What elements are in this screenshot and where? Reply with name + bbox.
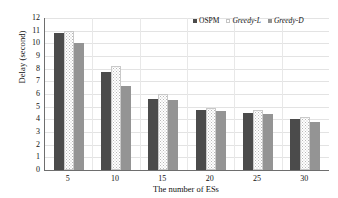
plot-area: [44, 18, 329, 171]
y-axis-tick-label: 3: [18, 128, 40, 136]
y-axis-tick-label: 2: [18, 141, 40, 149]
y-axis-tick-label: 8: [18, 65, 40, 73]
bar: [64, 31, 74, 170]
x-axis-title: The number of ESs: [44, 184, 328, 194]
bar: [216, 111, 226, 170]
legend-swatch-icon: [268, 19, 272, 23]
bar: [168, 100, 178, 170]
legend-label: Greedy-L: [232, 16, 260, 25]
y-axis-tick-label: 11: [18, 27, 40, 35]
y-axis-tick-label: 12: [18, 14, 40, 22]
legend-entry: Greedy-D: [268, 16, 304, 25]
bar: [54, 33, 64, 170]
legend-entry: Greedy-L: [226, 16, 260, 25]
y-axis-tick-label: 7: [18, 77, 40, 85]
bar: [158, 94, 168, 170]
bar: [148, 99, 158, 170]
bar-group: [282, 18, 329, 170]
y-axis-tick-label: 1: [18, 153, 40, 161]
bar: [300, 117, 310, 170]
bar: [111, 66, 121, 170]
bar-group: [92, 18, 139, 170]
y-axis-tick-label: 0: [18, 166, 40, 174]
bar: [253, 110, 263, 170]
y-axis-tick-label: 9: [18, 52, 40, 60]
y-axis-tick-labels: 0123456789101112: [18, 14, 40, 174]
bar: [243, 113, 253, 170]
y-axis-tick-label: 5: [18, 103, 40, 111]
bar: [206, 108, 216, 170]
legend-label: OSPM: [199, 16, 219, 25]
legend-label: Greedy-D: [274, 16, 304, 25]
bar: [101, 72, 111, 170]
legend: OSPMGreedy-LGreedy-D: [193, 16, 304, 25]
bar-group: [234, 18, 281, 170]
y-axis-tick-label: 10: [18, 39, 40, 47]
legend-swatch-icon: [193, 19, 197, 23]
bar: [74, 43, 84, 170]
bar: [263, 114, 273, 170]
y-axis-tick-label: 6: [18, 90, 40, 98]
bar-group: [140, 18, 187, 170]
bar: [310, 122, 320, 170]
bar-group: [45, 18, 92, 170]
bar: [121, 86, 131, 170]
legend-swatch-icon: [226, 19, 230, 23]
bar-groups: [45, 18, 329, 170]
y-axis-tick-label: 4: [18, 115, 40, 123]
bar-chart: Delay (second) 0123456789101112 51015202…: [0, 0, 338, 198]
bar-group: [187, 18, 234, 170]
bar: [290, 119, 300, 170]
legend-entry: OSPM: [193, 16, 219, 25]
bar: [196, 110, 206, 170]
